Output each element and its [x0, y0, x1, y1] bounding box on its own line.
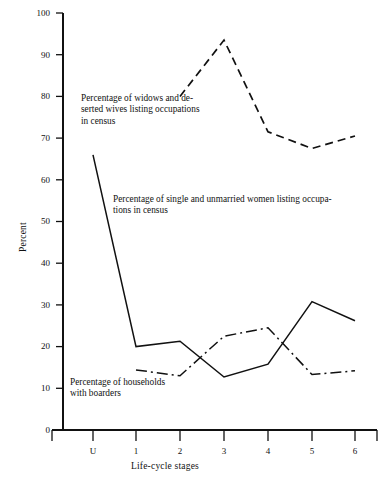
y-tick-label: 20 — [24, 341, 50, 351]
annotation-single-women-line-2: tions in census — [113, 205, 381, 216]
y-tick-label: 70 — [24, 133, 50, 143]
y-axis-title: Percent — [18, 222, 28, 252]
y-tick-label: 40 — [24, 258, 50, 268]
y-tick-label: 90 — [24, 50, 50, 60]
x-tick-label-2: 2 — [170, 446, 190, 456]
x-axis-title: Life-cycle stages — [131, 461, 199, 471]
annotation-boarders: Percentage of households with boarders — [70, 377, 220, 400]
annotation-boarders-line-1: Percentage of households — [70, 377, 220, 388]
x-tick-label-3: 3 — [214, 446, 234, 456]
y-tick-label: 10 — [24, 383, 50, 393]
annotation-widows-line-1: Percentage of widows and de- — [81, 93, 247, 104]
y-tick-label: 60 — [24, 175, 50, 185]
annotation-boarders-line-2: with boarders — [70, 388, 220, 399]
series-single-women-line — [93, 155, 355, 377]
annotation-single-women-line-1: Percentage of single and unmarried women… — [113, 194, 381, 205]
x-tick-label-1: 1 — [126, 446, 146, 456]
x-tick-label-4: 4 — [258, 446, 278, 456]
x-axis-ticks — [52, 430, 377, 441]
x-tick-label-6: 6 — [345, 446, 365, 456]
x-tick-label-5: 5 — [302, 446, 322, 456]
x-tick-label-u: U — [83, 446, 103, 456]
y-tick-label: 0 — [24, 425, 50, 435]
chart-figure: 100 90 80 70 60 50 40 30 20 10 0 U 1 2 3… — [0, 0, 387, 490]
annotation-widows: Percentage of widows and de- serted wive… — [81, 93, 247, 127]
chart-plot-area — [0, 0, 387, 490]
annotation-widows-line-3: in census — [81, 116, 247, 127]
annotation-single-women: Percentage of single and unmarried women… — [113, 194, 381, 217]
y-axis-ticks — [56, 13, 63, 430]
y-tick-label: 100 — [24, 8, 50, 18]
y-tick-label: 30 — [24, 300, 50, 310]
y-tick-label: 80 — [24, 91, 50, 101]
series-boarders-line — [136, 328, 355, 376]
annotation-widows-line-2: serted wives listing occupations — [81, 104, 247, 115]
